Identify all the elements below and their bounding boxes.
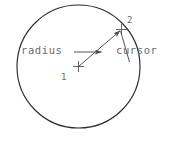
circle-construction-figure: radius cursor 1 2 (0, 0, 188, 141)
cursor-label: cursor (116, 45, 158, 56)
point-2-label: 2 (127, 16, 132, 25)
point-1-label: 1 (61, 73, 66, 82)
radius-vector-arrow (79, 31, 121, 67)
figure-canvas (0, 0, 188, 141)
radius-label: radius (21, 45, 63, 56)
